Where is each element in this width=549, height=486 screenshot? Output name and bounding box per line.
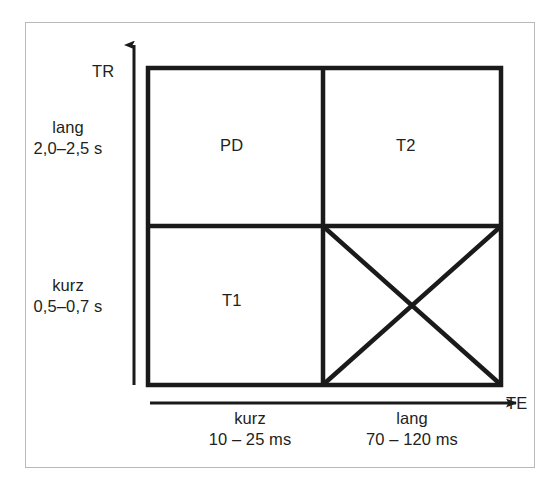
- x-category-kurz-value: 10 – 25 ms: [170, 430, 330, 449]
- cell-crossed-out-marker: [325, 228, 499, 383]
- y-category-kurz-word: kurz: [14, 276, 122, 295]
- x-category-lang-value: 70 – 120 ms: [332, 430, 492, 449]
- y-category-kurz-value: 0,5–0,7 s: [14, 297, 122, 316]
- cell-label-pd: PD: [220, 136, 243, 155]
- y-category-lang: lang 2,0–2,5 s: [14, 118, 122, 159]
- cell-label-t2: T2: [396, 136, 416, 155]
- x-category-kurz-word: kurz: [170, 409, 330, 428]
- y-category-lang-word: lang: [14, 118, 122, 137]
- figure-root: TR TE lang 2,0–2,5 s kurz 0,5–0,7 s kurz…: [0, 0, 549, 486]
- y-category-kurz: kurz 0,5–0,7 s: [14, 276, 122, 317]
- y-category-lang-value: 2,0–2,5 s: [14, 139, 122, 158]
- y-axis-label-tr: TR: [92, 62, 114, 81]
- x-category-lang: lang 70 – 120 ms: [332, 409, 492, 450]
- x-category-kurz: kurz 10 – 25 ms: [170, 409, 330, 450]
- cell-label-t1: T1: [222, 291, 242, 310]
- x-category-lang-word: lang: [332, 409, 492, 428]
- x-axis-label-te: TE: [506, 394, 527, 413]
